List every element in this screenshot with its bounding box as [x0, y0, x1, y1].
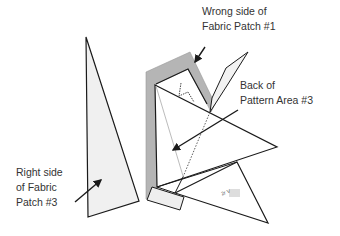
label-line: Wrong side of — [202, 4, 276, 19]
label-line: of Fabric — [16, 180, 63, 195]
arrow-wrong-side — [195, 47, 205, 62]
label-line: Back of — [240, 78, 313, 93]
label-back-of-pattern: Back of Pattern Area #3 — [240, 78, 313, 108]
label-line: Right side — [16, 165, 63, 180]
label-line: Pattern Area #3 — [240, 93, 313, 108]
label-line: Fabric Patch #1 — [202, 19, 276, 34]
label-line: Patch #3 — [16, 195, 63, 210]
fabric-bottom-tab — [147, 187, 184, 210]
fabric-patch-3-right-side — [86, 37, 139, 217]
label-wrong-side: Wrong side of Fabric Patch #1 — [202, 4, 276, 34]
label-right-side: Right side of Fabric Patch #3 — [16, 165, 63, 210]
